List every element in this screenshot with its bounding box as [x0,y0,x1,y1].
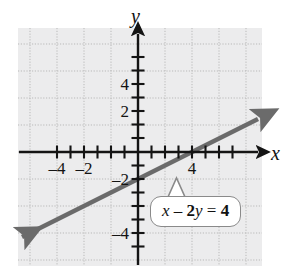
callout-term-x: x [162,201,170,220]
coordinate-graph-figure: –4 –2 4 4 2 –2 –4 y x x – 2y = 4 [0,0,291,274]
callout-operator-minus: – [170,201,187,220]
callout-coefficient-2: 2 [187,201,196,220]
callout-constant-4: 4 [221,201,230,220]
callout-term-y: y [195,201,203,220]
callout-operator-equals: = [203,201,221,220]
equation-callout: x – 2y = 4 [150,196,241,227]
callout-pointer [0,0,291,274]
